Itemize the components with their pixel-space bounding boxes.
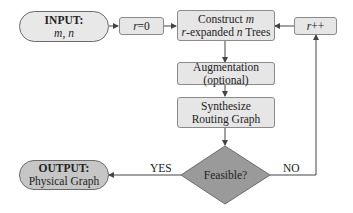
no-label: NO (283, 162, 300, 174)
decision-label: Feasible? (181, 168, 270, 182)
output-value: Physical Graph (29, 175, 100, 188)
output-title: OUTPUT: (39, 162, 90, 175)
synthesize-line2: Routing Graph (192, 113, 261, 126)
synthesize-line1: Synthesize (201, 100, 251, 113)
input-title: INPUT: (45, 14, 84, 27)
input-params: m, n (54, 27, 74, 40)
construct-text3: Trees (243, 26, 271, 38)
increment-r-node: r++ (294, 17, 337, 35)
decision-text: Feasible? (204, 169, 247, 182)
init-r-node: r=0 (119, 17, 164, 35)
augmentation-node-box: Augmentation (optional) (177, 62, 275, 85)
construct-text: Construct (198, 13, 246, 25)
init-rest: =0 (138, 20, 150, 32)
yes-label: YES (150, 162, 172, 174)
construct-text2: -expanded (186, 26, 237, 38)
incr-rest: ++ (311, 20, 324, 32)
input-node: INPUT: m, n (19, 11, 109, 42)
construct-trees-node: Construct m r-expanded n Trees (177, 10, 275, 41)
augmentation-line1: Augmentation (193, 61, 259, 74)
augmentation-line2: (optional) (203, 74, 248, 87)
construct-var-m: m (246, 13, 254, 25)
synthesize-node: Synthesize Routing Graph (177, 97, 275, 128)
output-node: OUTPUT: Physical Graph (19, 160, 109, 190)
